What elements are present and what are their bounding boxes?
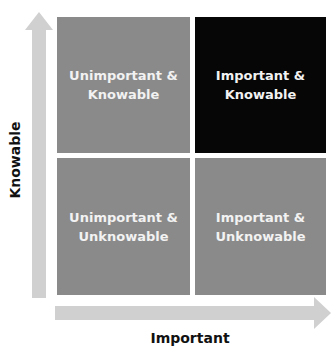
- quadrant-important-unknowable: Important & Unknowable: [195, 158, 326, 295]
- quadrant-label-line1: Unimportant &: [69, 66, 178, 85]
- quadrant-label-line2: Knowable: [69, 85, 178, 104]
- arrow-up-icon: [25, 12, 53, 298]
- y-axis-label: Knowable: [7, 121, 23, 198]
- quadrant-label-line2: Unknowable: [69, 227, 178, 246]
- quadrant-label-line1: Important &: [216, 66, 305, 85]
- x-axis-label: Important: [150, 330, 229, 346]
- quadrant-unimportant-unknowable: Unimportant & Unknowable: [57, 158, 190, 295]
- quadrant-label-line2: Unknowable: [215, 227, 305, 246]
- quadrant-label-line1: Unimportant &: [69, 208, 178, 227]
- quadrant-label-line2: Knowable: [216, 85, 305, 104]
- arrow-right-icon: [55, 297, 331, 329]
- quadrant-unimportant-knowable: Unimportant & Knowable: [57, 17, 190, 153]
- quadrant-important-knowable: Important & Knowable: [195, 17, 326, 153]
- quadrant-label-line1: Important &: [215, 208, 305, 227]
